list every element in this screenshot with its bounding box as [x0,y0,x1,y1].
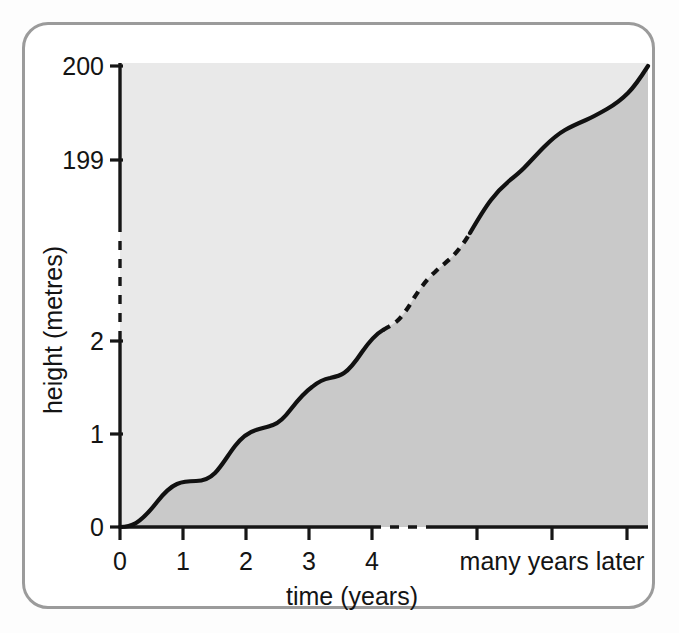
y-tick-label-0: 0 [90,513,104,541]
x-tick-label-0: 0 [113,547,127,575]
y-tick-label-199: 199 [62,146,104,174]
many-years-later-label: many years later [460,547,645,575]
y-axis-title: height (metres) [39,246,67,414]
x-tick-label-4: 4 [365,547,379,575]
x-tick-label-2: 2 [239,547,253,575]
scan-caption-fragment [28,618,458,632]
y-tick-label-200: 200 [62,52,104,80]
y-tick-label-2: 2 [90,327,104,355]
growth-chart: 200 199 2 1 0 0 1 2 3 4 many years later [0,0,679,633]
x-tick-label-1: 1 [176,547,190,575]
scanned-page: 200 199 2 1 0 0 1 2 3 4 many years later [0,0,679,633]
x-axis-title: time (years) [286,582,418,610]
y-tick-label-1: 1 [90,420,104,448]
x-tick-label-3: 3 [302,547,316,575]
chart-svg: 200 199 2 1 0 0 1 2 3 4 many years later [0,0,679,633]
